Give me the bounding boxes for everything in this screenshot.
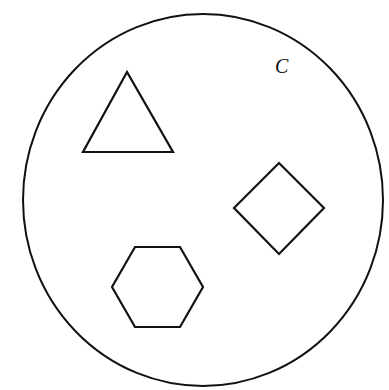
set-diagram: C [0, 0, 389, 390]
diamond-shape [234, 163, 324, 254]
hexagon-shape [112, 247, 203, 327]
triangle-shape [83, 72, 173, 152]
diagram-svg: C [0, 0, 389, 390]
set-c-circle [23, 14, 383, 386]
set-label: C [275, 55, 289, 77]
